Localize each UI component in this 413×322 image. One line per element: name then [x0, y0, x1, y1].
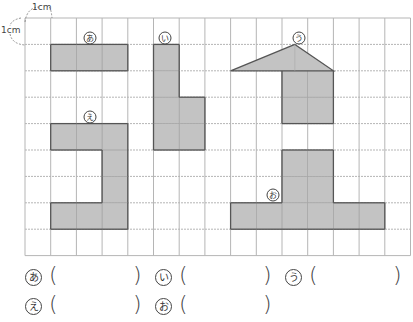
shape-cell	[308, 97, 334, 123]
open-paren: (	[309, 262, 318, 287]
shape-label-o: お	[267, 189, 279, 201]
answer-row: あ()い()う()	[0, 265, 413, 291]
shape-cell	[359, 203, 385, 229]
grid-figure: あいうえお 1cm 1cm	[0, 0, 413, 262]
shape-cell	[154, 97, 180, 123]
unit-annotation: 1cm 1cm	[1, 2, 52, 45]
open-paren: (	[49, 262, 58, 287]
answer-mark: あ	[25, 269, 42, 286]
shape-cell	[102, 150, 128, 176]
answer-row: え()お()	[0, 294, 413, 320]
shape-cell	[256, 203, 282, 229]
shape-cell	[154, 44, 180, 70]
shape-cell	[179, 97, 205, 123]
shape-cell	[333, 203, 359, 229]
shape-cell	[308, 71, 334, 97]
shape-cell	[51, 44, 77, 70]
shape-u	[231, 44, 334, 123]
shape-cell	[76, 44, 102, 70]
answer-blank[interactable]	[191, 296, 261, 316]
shape-cell	[51, 203, 77, 229]
shape-cell	[282, 97, 308, 123]
shape-cell	[308, 150, 334, 176]
shape-label-u: う	[293, 32, 305, 44]
answer-blank[interactable]	[191, 267, 261, 287]
answer-blank[interactable]	[321, 267, 391, 287]
shape-cell	[282, 71, 308, 97]
label-text: お	[269, 191, 277, 200]
answer-mark: い	[155, 269, 172, 286]
shape-cell	[282, 176, 308, 202]
open-paren: (	[49, 291, 58, 316]
shape-cell	[154, 71, 180, 97]
shape-cell	[76, 203, 102, 229]
shape-cell	[282, 203, 308, 229]
close-paren: )	[263, 262, 272, 287]
label-text: あ	[86, 34, 94, 43]
close-paren: )	[263, 291, 272, 316]
shape-cell	[179, 124, 205, 150]
shape-cell	[282, 150, 308, 176]
open-paren: (	[179, 262, 188, 287]
answer-mark: お	[155, 298, 172, 315]
shape-a	[51, 44, 128, 70]
shape-cell	[51, 124, 77, 150]
unit-label-top: 1cm	[32, 2, 51, 12]
open-paren: (	[179, 291, 188, 316]
shape-o	[231, 150, 385, 229]
shape-cell	[308, 203, 334, 229]
shape-label-e: え	[84, 111, 96, 123]
label-text: え	[86, 113, 94, 122]
shape-cell	[308, 176, 334, 202]
answer-mark: え	[25, 298, 42, 315]
answer-blank[interactable]	[61, 267, 131, 287]
shape-cell	[231, 203, 257, 229]
shape-label-a: あ	[84, 32, 96, 44]
shape-i	[154, 44, 205, 150]
shape-label-i: い	[159, 32, 171, 44]
answer-mark: う	[285, 269, 302, 286]
unit-label-left: 1cm	[1, 25, 20, 35]
shape-cell	[102, 44, 128, 70]
shape-cell	[102, 124, 128, 150]
shape-cell	[154, 124, 180, 150]
close-paren: )	[133, 262, 142, 287]
shape-cell	[102, 176, 128, 202]
shape-cell	[102, 203, 128, 229]
label-text: う	[295, 34, 303, 43]
shape-cell	[76, 124, 102, 150]
close-paren: )	[393, 262, 402, 287]
shapes-layer: あいうえお	[51, 32, 385, 229]
close-paren: )	[133, 291, 142, 316]
answer-blank[interactable]	[61, 296, 131, 316]
label-text: い	[161, 34, 169, 43]
